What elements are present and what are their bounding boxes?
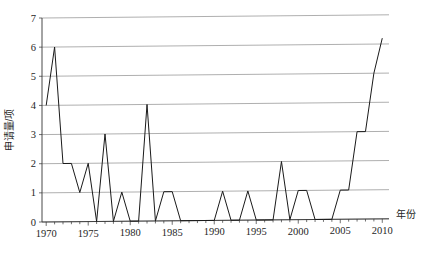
chart-background	[0, 0, 434, 257]
x-tick-label-1980: 1980	[120, 227, 141, 238]
x-tick-label-1990: 1990	[204, 226, 225, 237]
line-chart: 01234567 1970197519801985199019952000200…	[0, 0, 434, 257]
y-tick-label-2: 2	[31, 158, 36, 169]
y-axis-title-text: 申请量/项	[3, 109, 15, 152]
y-tick-label-6: 6	[31, 42, 36, 53]
x-tick-label-1995: 1995	[246, 226, 267, 237]
x-tick-label-2010: 2010	[372, 225, 393, 236]
chart-container: 01234567 1970197519801985199019952000200…	[0, 0, 434, 257]
x-tick-label-2005: 2005	[330, 225, 351, 236]
x-tick-label-1975: 1975	[78, 228, 99, 239]
y-tick-label-0: 0	[31, 217, 36, 228]
y-tick-label-1: 1	[31, 187, 36, 198]
x-tick-label-1970: 1970	[36, 228, 57, 239]
y-tick-label-4: 4	[31, 100, 37, 111]
y-tick-label-5: 5	[31, 71, 36, 82]
x-tick-label-2000: 2000	[288, 226, 309, 237]
y-tick-label-7: 7	[31, 13, 36, 24]
y-tick-label-3: 3	[31, 129, 36, 140]
x-axis-title: 年份	[396, 208, 416, 220]
y-axis-title: 申请量/项	[3, 109, 15, 152]
x-tick-label-1985: 1985	[162, 227, 183, 238]
